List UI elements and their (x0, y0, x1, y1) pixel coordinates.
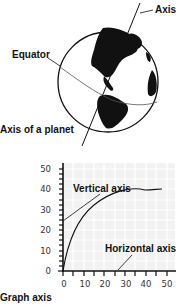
graph-axis-caption: Graph axis (0, 292, 52, 303)
axis-leader (140, 10, 153, 13)
svg-text:40: 40 (40, 184, 51, 194)
svg-text:30: 30 (121, 279, 132, 289)
vertical-axis-label: Vertical axis (73, 183, 131, 194)
equator-label: Equator (12, 49, 50, 60)
diagram-canvas: Axis Equator Axis of a planet (0, 0, 187, 305)
graph (58, 163, 176, 276)
svg-text:50: 50 (162, 279, 173, 289)
y-axis-ticks (58, 169, 63, 271)
horizontal-axis-label: Horizontal axis (105, 243, 177, 254)
x-tick-labels: 0 10 20 30 40 50 (61, 279, 172, 289)
svg-text:50: 50 (40, 164, 51, 174)
svg-text:40: 40 (141, 279, 152, 289)
axis-of-planet-label: Axis of a planet (0, 124, 75, 135)
y-tick-labels: 0 10 20 30 40 50 (40, 164, 51, 276)
equator-leader (48, 58, 60, 66)
svg-text:0: 0 (61, 279, 66, 289)
axis-label: Axis (155, 4, 177, 15)
svg-text:30: 30 (40, 205, 51, 215)
svg-text:20: 20 (40, 225, 51, 235)
svg-text:20: 20 (100, 279, 111, 289)
svg-text:10: 10 (80, 279, 91, 289)
svg-text:0: 0 (46, 266, 51, 276)
svg-text:10: 10 (40, 246, 51, 256)
